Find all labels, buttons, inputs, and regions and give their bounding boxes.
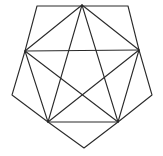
edge-AI xyxy=(82,5,118,122)
edge-AH xyxy=(48,5,82,122)
edge-AD xyxy=(25,5,82,51)
edge-DE xyxy=(25,50,139,51)
edge-AE xyxy=(82,5,139,50)
edge-EH xyxy=(48,50,139,122)
geometric-diagram xyxy=(0,0,163,156)
edge-DI xyxy=(25,51,118,122)
edge-DH xyxy=(25,51,48,122)
pentagram-pentagon-figure xyxy=(0,0,163,156)
edge-EI xyxy=(118,50,139,122)
